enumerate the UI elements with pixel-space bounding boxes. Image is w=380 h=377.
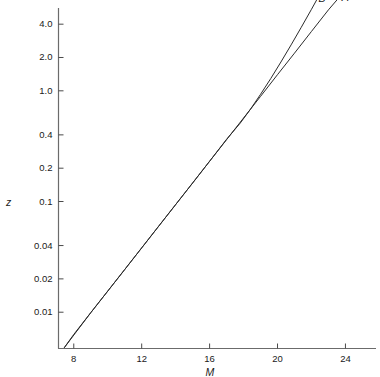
- y-tick-label: 4.0: [0, 19, 53, 29]
- x-tick-label: 20: [272, 354, 283, 364]
- x-tick-label: 12: [136, 354, 147, 364]
- x-tick-label: 24: [340, 354, 351, 364]
- x-tick-marks: [74, 344, 346, 349]
- curve-b: [64, 0, 316, 347]
- curve-label-a: A: [342, 0, 349, 2]
- x-axis-title: M: [206, 367, 215, 377]
- y-tick-label: 0.02: [0, 274, 53, 284]
- curve-label-b: B: [319, 0, 326, 4]
- y-tick-marks: [59, 24, 64, 312]
- y-tick-label: 1.0: [0, 86, 53, 96]
- y-tick-label: 0.04: [0, 241, 53, 251]
- data-curves: [64, 0, 338, 347]
- x-tick-label: 8: [71, 354, 76, 364]
- y-tick-label: 2.0: [0, 53, 53, 63]
- x-tick-label: 16: [204, 354, 215, 364]
- y-axis-title: z: [6, 197, 11, 208]
- y-tick-label: 0.4: [0, 130, 53, 140]
- plot-canvas: [0, 0, 380, 377]
- curve-a: [64, 0, 338, 347]
- axis-lines: [58, 8, 376, 349]
- y-tick-label: 0.2: [0, 163, 53, 173]
- y-tick-label: 0.01: [0, 307, 53, 317]
- chart-figure: 4.02.01.00.40.20.10.040.020.01 812162024…: [0, 0, 380, 377]
